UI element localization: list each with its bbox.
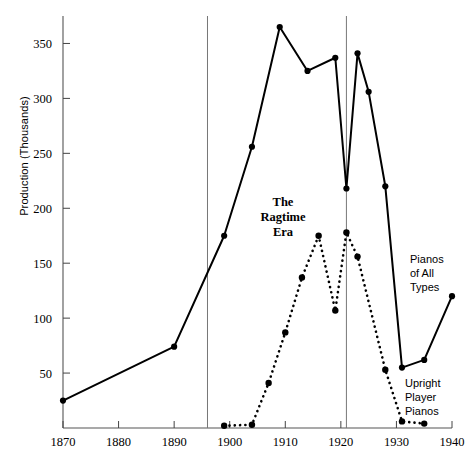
series-path [224,232,424,425]
player-line-2: Player [405,391,437,403]
data-point [366,89,372,95]
data-point [282,329,288,335]
x-tick-label-1920: 1920 [328,435,353,449]
data-point [171,344,177,350]
y-tick-label-300: 300 [33,92,52,106]
series-upright-player-pianos [221,229,427,429]
data-point [382,183,388,189]
data-point [304,68,310,74]
player-line-3: Pianos [405,405,439,417]
data-point [277,24,283,30]
data-point [449,293,455,299]
data-point [60,397,66,403]
y-axis-label: Production (Thousands) [18,86,30,226]
x-tick-label-1890: 1890 [162,435,187,449]
data-point [265,380,271,386]
data-point [354,50,360,56]
annotation-ragtime-era: The Ragtime Era [260,195,306,239]
annotation-pianos-of-all-types: Pianos of All Types [410,253,444,293]
data-point [343,185,349,191]
data-point [332,55,338,61]
data-point [382,367,388,373]
data-series-layer [60,24,455,429]
y-tick-label-200: 200 [33,202,52,216]
all-types-line-1: Pianos [410,253,444,265]
series-path [63,27,452,401]
data-point [354,253,360,259]
piano-production-chart: Production (Thousands) 50100150200250300… [0,0,470,451]
all-types-line-3: Types [410,281,440,293]
data-point [332,307,338,313]
all-types-line-2: of All [410,267,434,279]
y-axis-ticks: 50100150200250300350 [33,37,70,381]
ragtime-line-3: Era [273,225,294,239]
data-point [399,418,405,424]
y-tick-label-50: 50 [40,367,53,381]
data-point [249,422,255,428]
player-line-1: Upright [405,377,440,389]
data-point [249,144,255,150]
data-point [221,233,227,239]
x-axis-ticks: 18701880189019001910192019301940 [51,421,465,449]
data-point [299,274,305,280]
data-point [421,357,427,363]
x-tick-label-1940: 1940 [440,435,465,449]
data-point [343,229,349,235]
data-point [421,420,427,426]
data-point [315,233,321,239]
ragtime-line-1: The [273,195,294,209]
y-tick-label-150: 150 [33,257,52,271]
data-point [221,423,227,429]
x-tick-label-1930: 1930 [384,435,409,449]
series-pianos-of-all-types [60,24,455,404]
y-tick-label-250: 250 [33,147,52,161]
y-tick-label-100: 100 [33,312,52,326]
annotation-upright-player-pianos: Upright Player Pianos [405,377,440,417]
x-tick-label-1900: 1900 [217,435,242,449]
x-tick-label-1870: 1870 [51,435,76,449]
y-tick-label-350: 350 [33,37,52,51]
ragtime-line-2: Ragtime [260,210,306,224]
x-tick-label-1880: 1880 [106,435,131,449]
data-point [399,364,405,370]
x-tick-label-1910: 1910 [273,435,298,449]
chart-plot-area: 50100150200250300350 1870188018901900191… [0,0,470,451]
